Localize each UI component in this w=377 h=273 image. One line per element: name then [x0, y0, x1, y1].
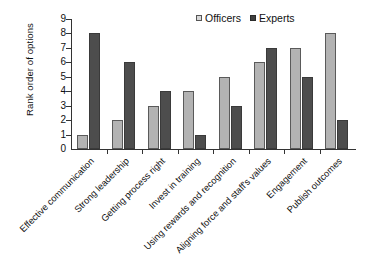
bar-officers-1 [112, 120, 123, 149]
y-tick-label: 0 [46, 144, 66, 154]
y-tick-label: 6 [46, 57, 66, 67]
x-tick-mark [320, 150, 321, 154]
y-tick-label: 4 [46, 86, 66, 96]
legend-label-experts: Experts [259, 12, 295, 24]
y-tick-label: 7 [46, 43, 66, 53]
bar-experts-3 [195, 135, 206, 149]
bar-experts-0 [89, 33, 100, 149]
bar-officers-6 [290, 48, 301, 149]
bar-experts-2 [160, 91, 171, 149]
bar-experts-6 [302, 77, 313, 149]
y-tick-label: 5 [46, 72, 66, 82]
y-tick-label: 3 [46, 101, 66, 111]
x-tick-mark [213, 150, 214, 154]
chart-legend: Officers Experts [196, 12, 295, 24]
y-tick-label: 2 [46, 115, 66, 125]
x-tick-mark [142, 150, 143, 154]
bar-officers-3 [183, 91, 194, 149]
bar-officers-2 [148, 106, 159, 149]
bar-chart: Rank order of options 0123456789 Officer… [0, 0, 377, 273]
x-tick-mark [284, 150, 285, 154]
x-tick-mark [249, 150, 250, 154]
y-axis-title: Rank order of options [24, 0, 35, 140]
bar-officers-5 [254, 62, 265, 149]
bar-experts-4 [231, 106, 242, 149]
x-tick-mark [178, 150, 179, 154]
bar-officers-0 [77, 135, 88, 149]
x-tick-mark [107, 150, 108, 154]
bar-officers-7 [325, 33, 336, 149]
bar-experts-7 [337, 120, 348, 149]
y-tick-label: 9 [46, 14, 66, 24]
legend-item-experts: Experts [250, 12, 295, 24]
plot-area [71, 19, 355, 149]
y-tick-label: 1 [46, 130, 66, 140]
officers-swatch-icon [196, 15, 202, 21]
x-category-label: Effective communication [0, 156, 96, 273]
experts-swatch-icon [250, 15, 256, 21]
bar-experts-1 [124, 62, 135, 149]
legend-label-officers: Officers [205, 12, 241, 24]
bar-experts-5 [266, 48, 277, 149]
y-tick-label: 8 [46, 28, 66, 38]
legend-item-officers: Officers [196, 12, 241, 24]
bar-officers-4 [219, 77, 230, 149]
